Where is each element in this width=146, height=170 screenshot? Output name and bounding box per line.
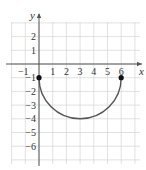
y-tick-label: −5: [25, 127, 36, 138]
endpoint-dot: [36, 75, 41, 80]
coordinate-graph: −112345621−1−2−3−4−5−6 x y: [0, 0, 146, 170]
y-tick-label: −6: [25, 141, 36, 152]
y-tick-label: −3: [25, 100, 36, 111]
x-tick-label: 4: [91, 66, 96, 77]
y-axis-arrow-icon: [37, 13, 41, 18]
x-tick-label: 2: [64, 66, 69, 77]
x-tick-label: 3: [78, 66, 83, 77]
y-axis-label: y: [29, 9, 35, 21]
x-tick-label: 1: [50, 66, 55, 77]
y-tick-label: −4: [25, 113, 36, 124]
y-tick-label: −1: [25, 72, 36, 83]
y-tick-label: 1: [31, 45, 36, 56]
x-axis-label: x: [138, 65, 144, 77]
y-tick-label: 2: [31, 31, 36, 42]
endpoint-dot: [119, 75, 124, 80]
y-tick-label: −2: [25, 86, 36, 97]
x-tick-label: 5: [105, 66, 110, 77]
